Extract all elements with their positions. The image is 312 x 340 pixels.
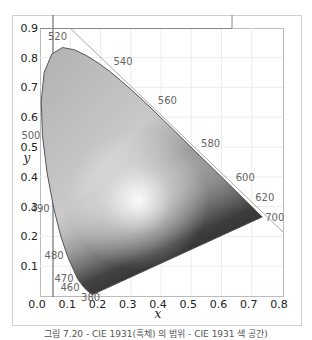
y-tick-label: 0.9 — [21, 22, 39, 35]
wavelength-label-480: 480 — [45, 250, 64, 261]
y-axis-ticks: 0.10.20.30.40.50.60.70.80.9 — [21, 22, 39, 273]
wavelength-label-460: 460 — [60, 282, 79, 293]
y-tick-label: 0.8 — [21, 52, 39, 65]
x-tick-label: 0.5 — [180, 298, 198, 311]
x-tick-label: 0.7 — [240, 298, 258, 311]
y-tick-label: 0.7 — [21, 81, 39, 94]
cie-chromaticity-chart: 0.00.10.20.30.40.50.60.70.8 0.10.20.30.4… — [0, 0, 312, 340]
y-tick-label: 0.4 — [21, 171, 39, 184]
x-axis-label: x — [155, 307, 162, 321]
y-tick-label: 0.2 — [21, 230, 39, 243]
wavelength-label-540: 540 — [113, 56, 132, 67]
wavelength-label-580: 580 — [201, 138, 220, 149]
x-tick-label: 0.3 — [119, 298, 137, 311]
wavelength-label-700: 700 — [265, 212, 284, 223]
y-tick-label: 0.1 — [21, 260, 39, 273]
wavelength-label-600: 600 — [236, 172, 255, 183]
wavelength-label-500: 500 — [21, 130, 40, 141]
figure-caption: 그림 7.20 - CIE 1931(흑체) 의 범위 - CIE 1931 색… — [0, 327, 312, 340]
wavelength-label-560: 560 — [158, 95, 177, 106]
x-tick-label: 0.1 — [59, 298, 77, 311]
wavelength-label-490: 490 — [31, 203, 50, 214]
wavelength-label-470: 470 — [54, 273, 73, 284]
y-axis-label: y — [23, 151, 31, 165]
y-tick-label: 0.6 — [21, 111, 39, 124]
x-tick-label: 0.6 — [210, 298, 228, 311]
x-tick-label: 0.0 — [28, 298, 46, 311]
wavelength-label-620: 620 — [255, 192, 274, 203]
wavelength-label-520: 520 — [48, 31, 67, 42]
x-tick-label: 0.8 — [270, 298, 288, 311]
wavelength-label-380: 380 — [81, 292, 100, 303]
